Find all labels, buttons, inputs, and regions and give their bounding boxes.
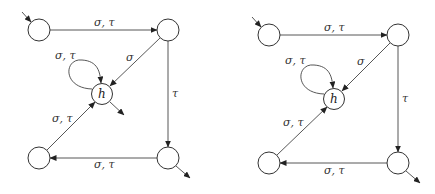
state-q0 bbox=[258, 24, 280, 46]
final-arrow-q3 bbox=[406, 171, 420, 183]
state-q0 bbox=[28, 19, 50, 41]
label-q2-h: σ, τ bbox=[283, 116, 305, 129]
final-arrow-q3 bbox=[176, 166, 190, 178]
state-q2 bbox=[258, 152, 280, 174]
label-q1-h: σ bbox=[126, 51, 134, 64]
label-q1-h: σ bbox=[357, 55, 365, 68]
automaton-left: h σ, τ σ σ, τ τ σ, τ σ, τ bbox=[22, 12, 190, 178]
automaton-right: h σ, τ σ σ, τ τ σ, τ σ, τ bbox=[252, 17, 420, 183]
state-q3 bbox=[157, 147, 179, 169]
state-q1 bbox=[387, 24, 409, 46]
label-q3-q2: σ, τ bbox=[324, 164, 346, 177]
edge-q2-h bbox=[47, 102, 95, 150]
automata-figure: h σ, τ σ σ, τ τ σ, τ σ, τ h σ, τ σ σ, τ … bbox=[0, 0, 435, 194]
final-arrow-h bbox=[110, 102, 124, 115]
state-h-label: h bbox=[330, 92, 338, 106]
label-h-loop: σ, τ bbox=[285, 54, 307, 67]
label-q3-q2: σ, τ bbox=[94, 158, 116, 171]
initial-arrow bbox=[22, 12, 31, 22]
label-h-loop: σ, τ bbox=[55, 49, 77, 62]
label-q2-h: σ, τ bbox=[52, 112, 74, 125]
label-q1-q3: τ bbox=[402, 92, 409, 105]
edge-h-loop bbox=[301, 65, 333, 94]
label-q0-q1: σ, τ bbox=[324, 21, 346, 34]
state-q3 bbox=[387, 152, 409, 174]
edge-q2-h bbox=[277, 107, 327, 155]
initial-arrow bbox=[252, 17, 261, 27]
state-q1 bbox=[157, 19, 179, 41]
edge-q1-h bbox=[110, 38, 160, 86]
edge-q1-h bbox=[342, 43, 390, 91]
state-q2 bbox=[28, 147, 50, 169]
state-h-label: h bbox=[98, 87, 106, 101]
label-q0-q1: σ, τ bbox=[94, 16, 116, 29]
label-q1-q3: τ bbox=[172, 87, 179, 100]
edge-h-loop bbox=[69, 60, 101, 89]
